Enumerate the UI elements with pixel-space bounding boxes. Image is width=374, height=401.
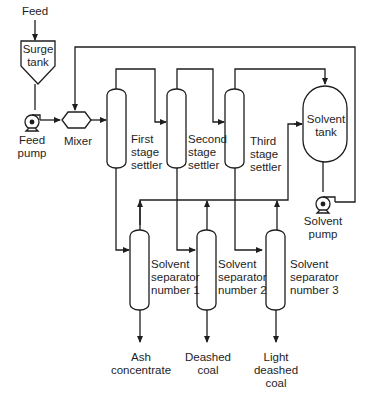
solvent-separator-3-label: Solvent separator number 3 <box>290 258 339 297</box>
first-stage-settler <box>107 89 126 168</box>
third-stage-settler <box>225 89 244 168</box>
solvent-separator-1-label: Solvent separator number 1 <box>151 258 200 297</box>
settler3-to-separator3-line <box>235 168 262 250</box>
feed-pump-icon <box>25 115 40 131</box>
settler3-to-solvent-tank-line <box>235 69 325 89</box>
surge-tank-label: Surge tank <box>21 43 55 69</box>
first-stage-settler-label: First stage settler <box>131 133 162 172</box>
solvent-separator-2-label: Solvent separator number 2 <box>218 258 267 297</box>
mixer-vessel <box>62 112 91 128</box>
solvent-separator-2 <box>197 230 216 310</box>
settler2-to-separator2-line <box>177 168 195 250</box>
solvent-pump-label: Solvent pump <box>300 215 346 241</box>
third-stage-settler-label: Third stage settler <box>250 135 281 174</box>
solvent-separator-1 <box>130 230 149 310</box>
process-flow-diagram: Feed Surge tank Feed pump Mixer First st… <box>0 0 374 401</box>
second-stage-settler <box>167 89 186 168</box>
solvent-separator-3 <box>266 230 285 310</box>
ash-concentrate-label: Ash concentrate <box>106 351 176 377</box>
solvent-pump-icon <box>316 197 335 213</box>
second-stage-settler-label: Second stage settler <box>188 133 227 172</box>
mixer-label: Mixer <box>58 135 98 148</box>
feed-pump-label: Feed pump <box>14 134 50 160</box>
deashed-coal-label: Deashed coal <box>180 351 236 377</box>
settler1-to-separator1-line <box>116 168 129 250</box>
light-deashed-coal-label: Light deashed coal <box>248 351 304 390</box>
solvent-tank-label: Solvent tank <box>303 113 349 139</box>
feed-label: Feed <box>20 5 50 18</box>
diagram-graphics <box>0 0 374 401</box>
